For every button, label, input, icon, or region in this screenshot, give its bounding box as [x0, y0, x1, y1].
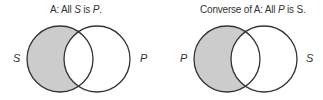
- set-label-p: P: [180, 52, 187, 64]
- title-mid: is: [81, 4, 93, 15]
- set-label-p: P: [140, 52, 147, 64]
- venn-diagram-converse: [194, 26, 297, 92]
- diagram-title-a: A: All S is P.: [50, 4, 102, 15]
- venn-diagrams-canvas: [0, 0, 323, 100]
- title-suffix: .: [99, 4, 102, 15]
- title-mid: is: [284, 4, 296, 15]
- diagram-title-converse: Converse of A: All P is S.: [200, 4, 305, 15]
- venn-diagram-a: [27, 26, 130, 92]
- title-prefix: Converse of A: All: [200, 4, 278, 15]
- title-prefix: A: All: [50, 4, 74, 15]
- set-label-s: S: [306, 52, 313, 64]
- set-label-s: S: [13, 52, 20, 64]
- title-suffix: .: [303, 4, 306, 15]
